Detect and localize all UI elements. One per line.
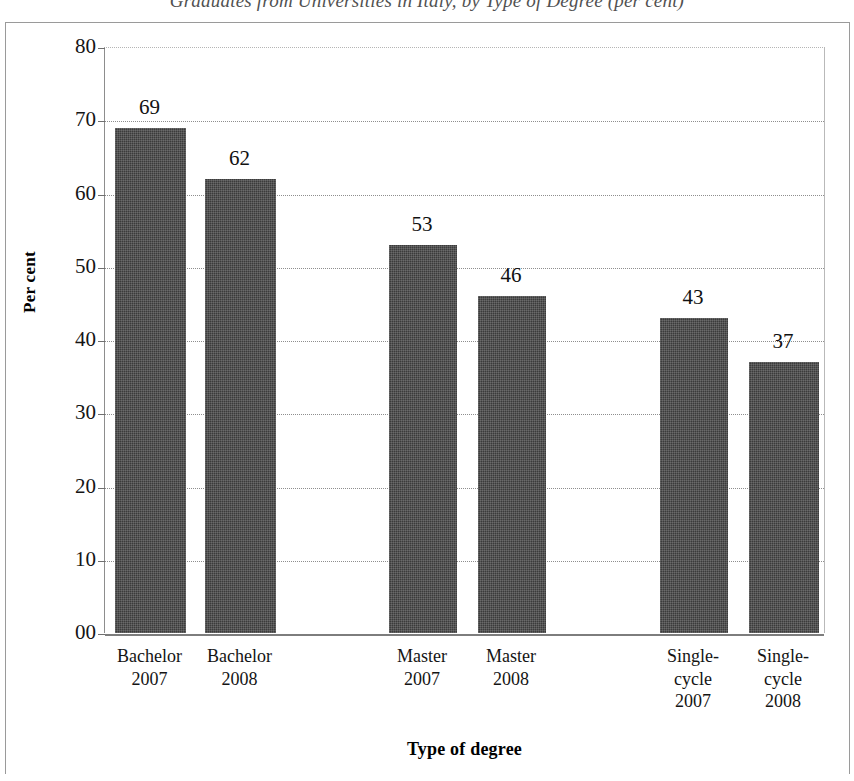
x-axis-tick-label: Single-cycle2008 [730,645,836,713]
y-axis-tick [98,268,105,269]
x-axis-title: Type of degree [104,739,825,760]
bar [389,245,457,633]
x-axis-tick-label: Bachelor2008 [186,645,293,690]
y-axis-tick [98,121,105,122]
bar-value-label: 53 [388,214,456,235]
bar-value-label: 69 [114,97,185,118]
x-axis-tick-label-line: 2008 [730,690,836,713]
y-axis-tick-label: 30 [52,402,96,423]
bar-value-label: 37 [748,331,818,352]
bar-value-label: 46 [477,265,545,286]
x-axis-tick-label: Master2008 [459,645,563,690]
x-axis-tick-label-line: Master [459,645,563,668]
x-axis-tick-label-line: Single- [730,645,836,668]
bar-value-label: 62 [204,148,275,169]
bar [749,362,819,633]
y-axis-tick-label: 20 [52,476,96,497]
x-axis-tick-label-line: Bachelor [186,645,293,668]
x-axis-tick-label-line: 2008 [186,668,293,691]
gridline [105,121,824,122]
figure-title: Graduates from Universities in Italy, by… [0,0,854,12]
y-axis-tick-label: 40 [52,329,96,350]
y-axis-tick [98,341,105,342]
axis-baseline [105,634,824,636]
y-axis-tick-label: 80 [52,36,96,57]
y-axis-tick [98,488,105,489]
bar [478,296,546,633]
bar [205,179,276,633]
y-axis-tick-labels: 807060504030201000 [40,0,96,700]
y-axis-tick-label: 00 [52,622,96,643]
x-axis-tick-label-line: cycle [730,668,836,691]
y-axis-tick [98,195,105,196]
y-axis-tick-label: 50 [52,256,96,277]
y-axis-title: Per cent [20,234,40,330]
y-axis-tick [98,634,105,635]
bar-chart: Graduates from Universities in Italy, by… [0,0,854,781]
y-axis-tick [98,48,105,49]
y-axis-tick [98,414,105,415]
bar [115,128,186,633]
y-axis-tick-label: 70 [52,109,96,130]
y-axis-tick [98,561,105,562]
bar-value-label: 43 [659,287,727,308]
bar [660,318,728,633]
plot-area [104,47,825,633]
y-axis-tick-label: 60 [52,183,96,204]
y-axis-tick-label: 10 [52,549,96,570]
x-axis-tick-label-line: 2008 [459,668,563,691]
